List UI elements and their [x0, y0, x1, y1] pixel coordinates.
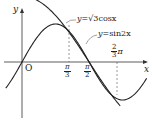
- label-sin2x: y=sin2x: [98, 30, 131, 38]
- y-axis-label: y: [13, 5, 18, 14]
- tick-denominator: 3: [64, 72, 71, 79]
- leader-cos: [66, 20, 76, 23]
- label-body: sin2x: [109, 29, 130, 38]
- origin-label: O: [25, 64, 32, 73]
- tick-pi-2: π 2: [84, 64, 91, 79]
- label-prefix: y=: [98, 29, 109, 38]
- graph-canvas: [0, 0, 152, 123]
- x-axis-label: x: [144, 65, 149, 74]
- tick-suffix: π: [117, 47, 122, 56]
- label-body: √3cosx: [88, 14, 116, 23]
- leader-sin: [86, 35, 97, 44]
- tick-2pi-3: 2 3 π: [111, 44, 123, 59]
- y-axis-arrow-icon: [20, 8, 24, 13]
- tick-pi-3: π 3: [64, 64, 71, 79]
- label-sqrt3-cos: y=√3cosx: [77, 15, 116, 23]
- label-prefix: y=: [77, 14, 88, 23]
- tick-denominator: 2: [84, 72, 91, 79]
